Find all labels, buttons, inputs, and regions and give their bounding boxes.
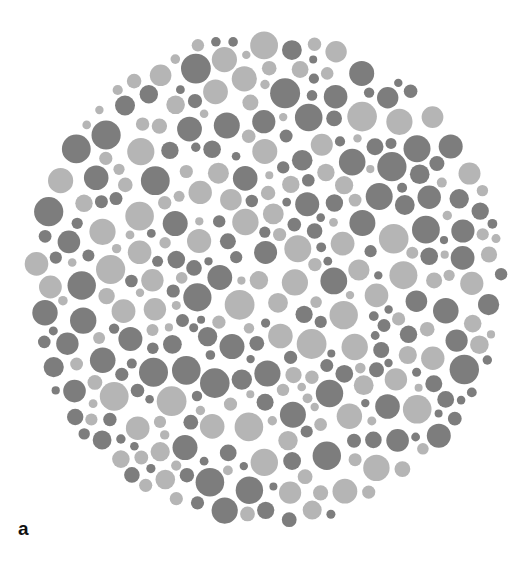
plate-dot: [252, 139, 277, 164]
plate-dot: [118, 327, 142, 351]
plate-dot: [305, 371, 318, 384]
plate-dot: [451, 219, 474, 242]
plate-dot: [230, 251, 242, 263]
plate-dot: [277, 384, 289, 396]
plate-dot: [451, 246, 475, 270]
plate-dot: [349, 453, 362, 466]
plate-dot: [250, 32, 278, 60]
plate-dot: [257, 394, 274, 411]
plate-dot: [278, 431, 297, 450]
plate-dot: [331, 232, 355, 256]
plate-dot: [176, 272, 188, 284]
plate-dot: [92, 120, 121, 149]
plate-dot: [450, 189, 469, 208]
plate-dot: [279, 482, 301, 504]
plate-dot: [297, 329, 327, 359]
plate-dot: [246, 355, 254, 363]
plate-dot: [303, 501, 322, 520]
plate-dot: [152, 256, 163, 267]
plate-dot: [39, 276, 62, 299]
plate-dot: [48, 168, 73, 193]
plate-dot: [183, 283, 211, 311]
plate-dot: [311, 403, 319, 411]
plate-dot: [113, 85, 123, 95]
plate-dot: [147, 342, 159, 354]
plate-dot: [392, 312, 405, 325]
plate-dot: [186, 260, 202, 276]
plate-dot: [124, 467, 140, 483]
plate-dot: [464, 315, 482, 333]
plate-dot: [38, 336, 51, 349]
plate-dot: [127, 74, 142, 89]
plate-dot: [127, 138, 154, 165]
plate-dot: [265, 171, 273, 179]
plate-dot: [213, 215, 225, 227]
plate-dot: [187, 229, 211, 253]
plate-dot: [84, 166, 109, 191]
plate-dot: [44, 357, 64, 377]
plate-dot: [72, 218, 83, 229]
plate-dot: [128, 241, 152, 265]
plate-dot: [326, 194, 343, 211]
plate-dot: [339, 149, 366, 176]
plate-dot: [472, 202, 489, 219]
plate-dot: [232, 369, 252, 389]
plate-dot: [311, 134, 333, 156]
plate-dot: [394, 79, 402, 87]
plate-dot: [172, 356, 201, 385]
plate-dot: [386, 109, 412, 135]
plate-dot: [82, 121, 91, 130]
plate-dot: [136, 289, 144, 297]
plate-dot: [159, 237, 170, 248]
plate-dot: [232, 209, 258, 235]
plate-dot: [337, 404, 362, 429]
plate-dot: [146, 464, 155, 473]
plate-dot: [259, 227, 270, 238]
plate-dot: [172, 301, 181, 310]
plate-dot: [113, 164, 124, 175]
plate-dot: [282, 198, 291, 207]
plate-dot: [457, 396, 466, 405]
plate-dot: [49, 326, 58, 335]
plate-dot: [150, 65, 172, 87]
plate-dot: [308, 38, 321, 51]
plate-dot: [384, 359, 392, 367]
plate-dot: [441, 251, 449, 259]
plate-dot: [70, 307, 96, 333]
plate-dot: [316, 380, 343, 407]
plate-dot: [171, 54, 181, 64]
plate-dot: [147, 324, 159, 336]
plate-dot: [95, 106, 103, 114]
plate-dot: [283, 452, 301, 470]
plate-dot: [384, 305, 392, 313]
plate-dot: [386, 138, 397, 149]
plate-dot: [39, 230, 52, 243]
plate-dot: [233, 166, 258, 191]
plate-dot: [284, 351, 297, 364]
plate-dot: [323, 257, 332, 266]
plate-dot: [284, 235, 311, 262]
plate-dot: [377, 152, 406, 181]
plate-dot: [151, 442, 170, 461]
plate-dot: [309, 56, 317, 64]
plate-dot: [280, 130, 293, 143]
plate-dot: [192, 391, 202, 401]
plate-dot: [130, 442, 139, 451]
plate-dot: [273, 228, 286, 241]
plate-dot: [32, 300, 57, 325]
plate-dot: [301, 425, 313, 437]
plate-dot: [397, 183, 407, 193]
plate-dot: [180, 468, 194, 482]
plate-dot: [139, 479, 152, 492]
plate-dot: [136, 117, 149, 130]
plate-dot: [410, 164, 430, 184]
plate-dot: [279, 113, 287, 121]
plate-dot: [285, 367, 301, 383]
plate-dot: [112, 244, 121, 253]
plate-dot: [439, 135, 463, 159]
plate-dot: [158, 196, 171, 209]
plate-dot: [189, 323, 198, 332]
plate-dot: [220, 233, 236, 249]
plate-dot: [326, 111, 342, 127]
plate-dot: [313, 485, 328, 500]
